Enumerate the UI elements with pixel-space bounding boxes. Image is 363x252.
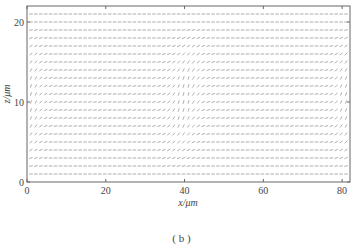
svg-text:40: 40 [180, 185, 190, 196]
x-axis-label: x/μm [177, 197, 197, 208]
figure-caption: ( b ) [0, 232, 363, 244]
quiver-plot: 02040608001020 z/μm x/μm [0, 0, 363, 252]
svg-text:10: 10 [14, 97, 24, 108]
svg-text:20: 20 [14, 17, 24, 28]
svg-text:20: 20 [101, 185, 111, 196]
svg-text:80: 80 [337, 185, 347, 196]
svg-text:60: 60 [258, 185, 268, 196]
svg-text:0: 0 [25, 185, 30, 196]
axis-ticks: 02040608001020 [14, 6, 350, 196]
svg-text:0: 0 [19, 177, 24, 188]
vector-field [29, 14, 348, 174]
y-axis-label: z/μm [1, 85, 12, 105]
